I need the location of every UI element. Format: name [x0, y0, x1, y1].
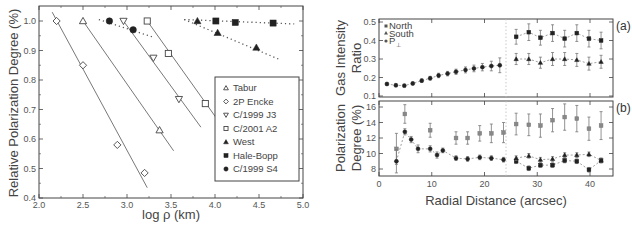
data-point	[428, 147, 432, 151]
data-point	[550, 157, 554, 161]
data-point	[472, 66, 476, 70]
data-point	[489, 131, 493, 135]
data-point	[435, 153, 439, 157]
legend-label: C/1999 J3	[233, 109, 276, 120]
data-point	[402, 84, 406, 88]
data-point	[416, 147, 420, 151]
y-tick-label: 14	[366, 118, 376, 128]
data-point	[106, 18, 112, 24]
left-chart: 2.02.53.03.54.04.55.00.40.50.60.70.80.91…	[6, 6, 309, 222]
x-tick-label: 30	[532, 179, 542, 189]
y-tick-label: 10	[366, 149, 376, 159]
legend-south-marker	[384, 31, 388, 35]
data-point	[539, 36, 543, 40]
y-tick-label: 8	[371, 164, 376, 174]
right-x-axis-title: Radial Distance (arcsec)	[425, 193, 567, 208]
data-point	[385, 82, 389, 86]
y-tick-label: 0.5	[363, 17, 376, 27]
data-point	[587, 37, 591, 41]
data-point	[563, 37, 567, 41]
data-point	[539, 124, 543, 128]
data-point	[502, 131, 506, 135]
data-point	[550, 57, 554, 61]
data-point	[403, 130, 407, 134]
data-point	[454, 136, 458, 140]
y-tick-label: 0.5	[23, 164, 36, 174]
data-point	[213, 18, 219, 24]
data-point	[130, 27, 136, 33]
data-point	[538, 61, 542, 65]
y-tick-label: 0.6	[23, 134, 36, 144]
right-legend: North South P ⊥	[384, 20, 414, 48]
data-point	[514, 35, 518, 39]
panel-b-frame	[379, 101, 613, 176]
legend-north-marker	[385, 25, 388, 28]
panel-a-y-title-2: Ratio	[349, 43, 364, 73]
figure: 2.02.53.03.54.04.55.00.40.50.60.70.80.91…	[0, 0, 632, 228]
data-point	[464, 68, 468, 72]
y-tick-label: 0.2	[363, 73, 376, 83]
y-tick-label: 0.7	[23, 105, 36, 115]
data-point	[489, 156, 493, 160]
panel-a-y-title-1: Gas Intensity	[333, 20, 348, 96]
x-tick-label: 10	[427, 179, 437, 189]
data-point	[527, 57, 531, 61]
legend-p-subscript: ⊥	[396, 42, 401, 48]
data-point	[599, 60, 603, 64]
data-point	[79, 17, 86, 23]
data-point	[575, 159, 579, 163]
y-tick-label: 0.1	[363, 91, 376, 101]
data-point	[489, 64, 493, 68]
data-point	[539, 163, 543, 167]
y-tick-label: 0.9	[23, 46, 36, 56]
y-tick-label: 0.3	[363, 54, 376, 64]
data-point	[120, 18, 127, 24]
data-point	[527, 30, 531, 34]
data-point	[454, 156, 458, 160]
legend-marker-icon	[224, 153, 228, 157]
data-point	[563, 159, 567, 163]
data-point	[214, 29, 221, 35]
data-point	[575, 117, 579, 121]
data-point	[232, 19, 238, 25]
y-tick-label: 0.4	[363, 36, 376, 46]
x-tick-label: 5.0	[297, 200, 310, 210]
legend-label: West	[233, 136, 255, 147]
data-point	[575, 31, 579, 35]
y-tick-label: 12	[366, 133, 376, 143]
data-point	[551, 163, 555, 167]
data-point	[165, 50, 171, 56]
panel-b-y-title-2: Degree (%)	[349, 105, 364, 171]
data-point	[498, 63, 502, 67]
legend-label: C/2001 A2	[233, 123, 277, 134]
x-tick-label: 4.5	[253, 200, 266, 210]
fit-line	[123, 21, 200, 127]
data-point	[175, 96, 182, 102]
legend-p-label: P	[389, 35, 395, 46]
data-point	[144, 18, 150, 24]
data-point	[53, 17, 60, 24]
data-point	[563, 115, 567, 119]
x-tick-label: 3.0	[121, 200, 134, 210]
data-point	[551, 31, 555, 35]
legend-marker-icon	[224, 126, 228, 130]
legend-label: C/1999 S4	[233, 163, 278, 174]
data-point	[411, 81, 415, 85]
data-point	[114, 141, 121, 148]
data-point	[478, 155, 482, 159]
data-point	[527, 166, 531, 170]
data-point	[466, 136, 470, 140]
right-chart: 0102030400.10.20.30.40.5810121416 Gas In…	[333, 17, 631, 208]
data-point	[599, 39, 603, 43]
legend-p-marker	[384, 39, 387, 42]
x-tick-label: 20	[479, 179, 489, 189]
data-point	[478, 131, 482, 135]
legend-label: 2P Encke	[233, 96, 274, 107]
fit-line	[184, 20, 279, 60]
data-point	[599, 124, 603, 128]
data-point	[466, 157, 470, 161]
left-legend: Tabur2P EnckeC/1999 J3C/2001 A2WestHale-…	[215, 77, 299, 181]
x-tick-label: 4.0	[209, 200, 222, 210]
data-point	[437, 73, 441, 77]
data-point	[428, 128, 432, 132]
